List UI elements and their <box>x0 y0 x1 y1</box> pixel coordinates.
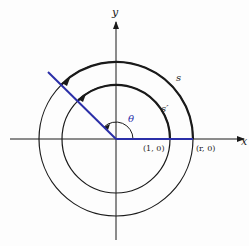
x-axis-label: x <box>241 135 248 148</box>
diagram-canvas: y x s s′ θ (1, 0) (r, 0) <box>0 0 249 246</box>
y-axis-label: y <box>111 6 119 19</box>
r-point-label: (r, 0) <box>196 144 215 153</box>
ray-terminal <box>48 72 116 139</box>
inner-arc-s-prime <box>78 85 170 139</box>
unit-circle-diagram: y x s s′ θ (1, 0) (r, 0) <box>0 0 249 246</box>
inner-arc-label: s′ <box>161 103 169 114</box>
angle-label: θ <box>128 113 134 124</box>
outer-arc-label: s <box>176 72 181 83</box>
unit-point-label: (1, 0) <box>143 144 165 153</box>
